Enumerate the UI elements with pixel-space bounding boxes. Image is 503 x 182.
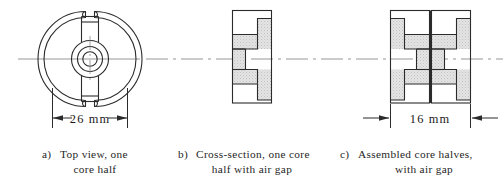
caption-b-line1: Cross-section, one core [196, 148, 310, 160]
hatch-upper-outer-right [457, 19, 470, 35]
hatch-lower-outer-right [457, 84, 470, 100]
caption-a-line1: Top view, one [60, 148, 128, 160]
hatch-upper-flange-right [432, 35, 470, 50]
caption-c-line1: Assembled core halves, [358, 148, 473, 160]
hatch-lower-flange-right [432, 70, 470, 85]
figure-container: 26 mm [0, 0, 503, 182]
hatch-lower-outer-left [391, 84, 404, 100]
hatch-lower-outer [258, 84, 271, 100]
dimension-label-16mm: 16 mm [410, 112, 450, 126]
hatch-upper-flange [233, 35, 271, 50]
hatch-center-post [233, 49, 246, 70]
hatch-center-post-right [432, 49, 445, 70]
hatch-lower-flange-left [391, 70, 429, 85]
caption-a-line2: core half [74, 163, 117, 175]
dimension-label-26mm: 26 mm [70, 112, 110, 126]
hatch-upper-flange-left [391, 35, 429, 50]
hatch-upper-outer [258, 19, 271, 35]
pot-core-figure: 26 mm [0, 0, 503, 182]
hatch-center-post-left [416, 49, 429, 70]
caption-c-prefix: c) [340, 148, 349, 161]
hatch-lower-flange [233, 70, 271, 85]
caption-c-line2: with air gap [395, 163, 453, 175]
caption-b-line2: half with air gap [212, 163, 292, 175]
caption-b-prefix: b) [178, 148, 188, 161]
caption-a-prefix: a) [42, 148, 51, 161]
hatch-upper-outer-left [391, 19, 404, 35]
